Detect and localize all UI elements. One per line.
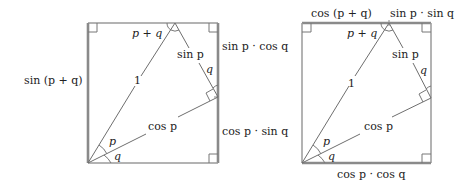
right-angle-marker: [302, 23, 311, 32]
trig-identity-diagram: sin (p + q) sin p · cos q cos p · sin q …: [0, 0, 464, 191]
angle-arc-p-bottom: [99, 145, 107, 154]
label-angle-q-right: q: [206, 63, 213, 76]
sin-p-segment: [389, 23, 403, 48]
label-sin-p: sin p: [177, 48, 204, 61]
label-cos-p: cos p: [364, 120, 393, 133]
label-angle-p: p: [323, 135, 330, 148]
label-hypotenuse-1: 1: [134, 74, 141, 87]
label-angle-q-right: q: [420, 64, 427, 77]
label-sin-p: sin p: [392, 48, 419, 61]
label-angle-q: q: [328, 150, 335, 163]
label-angle-q: q: [114, 150, 121, 163]
angle-arc-p-bottom: [313, 145, 321, 154]
label-angle-p-plus-q: p + q: [132, 27, 162, 40]
label-cos-p-sin-q: cos p · sin q: [222, 125, 288, 138]
label-cos-p-cos-q: cos p · cos q: [337, 168, 405, 181]
right-angle-marker: [422, 154, 431, 163]
right-angle-marker: [88, 23, 97, 32]
label-angle-p-plus-q: p + q: [347, 27, 377, 40]
left-figure: sin (p + q) sin p · cos q cos p · sin q …: [24, 23, 288, 163]
sin-p-segment: [175, 23, 189, 48]
right-figure: cos (p + q) sin p · sin q cos p · cos q …: [302, 7, 454, 181]
right-angle-marker: [419, 90, 426, 102]
right-angle-marker: [209, 23, 218, 32]
right-angle-marker: [209, 154, 218, 163]
right-angle-marker: [422, 23, 431, 32]
right-angle-marker: [206, 89, 213, 101]
angle-arc-q-bottom: [104, 155, 111, 163]
label-hypotenuse-1: 1: [348, 77, 355, 90]
label-sin-p-plus-q: sin (p + q): [24, 74, 83, 87]
label-sin-p-cos-q: sin p · cos q: [222, 40, 288, 53]
label-cos-p-plus-q: cos (p + q): [311, 7, 372, 20]
label-sin-p-sin-q: sin p · sin q: [390, 7, 454, 20]
label-angle-p: p: [109, 135, 116, 148]
label-cos-p: cos p: [148, 120, 177, 133]
